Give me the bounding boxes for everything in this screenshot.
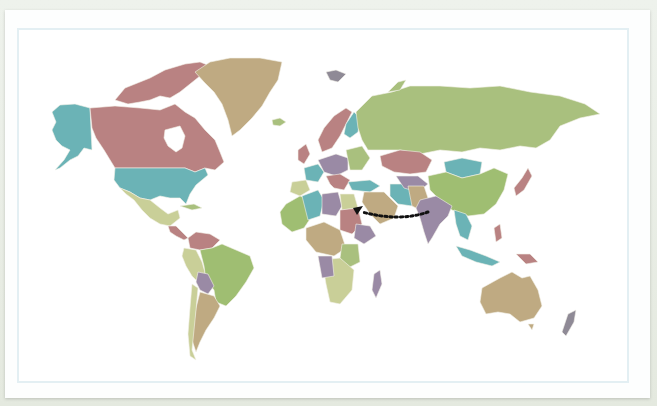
tasmania [528, 324, 534, 330]
papua [516, 254, 538, 264]
south-america [182, 232, 254, 360]
uk [298, 144, 310, 164]
japan [514, 168, 532, 196]
new-zealand [562, 310, 576, 336]
cuba [180, 204, 202, 210]
indonesia [456, 246, 500, 266]
libya [322, 192, 342, 216]
angola-region [318, 256, 334, 278]
central-america [168, 226, 188, 240]
north-america [52, 58, 286, 240]
balkans-italy [326, 174, 350, 190]
alaska [52, 104, 92, 170]
usa [114, 168, 208, 204]
iberia [290, 180, 310, 196]
india [416, 196, 452, 244]
philippines [494, 224, 502, 242]
france [304, 164, 324, 182]
svalbard [326, 70, 346, 82]
world-map [0, 0, 657, 406]
turkey [348, 180, 380, 192]
oceania [456, 224, 576, 336]
ethiopia-horn [354, 224, 376, 244]
iceland [272, 118, 286, 126]
russia [356, 86, 600, 154]
madagascar [372, 270, 382, 298]
canada [90, 104, 224, 172]
kazakhstan [380, 150, 432, 174]
eastern-europe [346, 146, 370, 170]
canada-arctic-islands [115, 62, 210, 104]
greenland [195, 58, 282, 136]
australia [480, 272, 542, 322]
